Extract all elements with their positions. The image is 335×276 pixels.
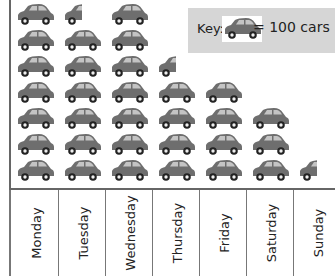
legend-key: Key: = 100 cars — [188, 8, 335, 53]
column-divider — [293, 190, 294, 276]
pictogram-chart: MondayTuesdayWednesdayThursdayFridaySatu… — [0, 0, 335, 276]
car-icon — [250, 159, 290, 183]
car-icon — [156, 133, 196, 157]
car-icon — [203, 133, 243, 157]
column-divider — [246, 190, 247, 276]
car-icon — [15, 81, 55, 105]
car-icon — [109, 133, 149, 157]
car-icon — [203, 107, 243, 131]
car-icon — [15, 133, 55, 157]
day-label-text: Tuesday — [75, 207, 90, 260]
car-icon — [250, 107, 290, 131]
key-value-text: = 100 cars — [253, 19, 330, 35]
column-divider — [58, 190, 59, 276]
day-label-tuesday: Tuesday — [59, 190, 106, 276]
car-icon — [62, 81, 102, 105]
half-car-icon — [297, 159, 335, 183]
car-icon — [156, 81, 196, 105]
car-icon — [203, 159, 243, 183]
car-icon — [62, 133, 102, 157]
car-icon — [109, 107, 149, 131]
day-label-friday: Friday — [200, 190, 247, 276]
car-icon — [156, 159, 196, 183]
day-label-text: Friday — [216, 213, 231, 252]
key-label: Key: — [197, 21, 224, 36]
car-icon — [62, 107, 102, 131]
car-icon — [109, 3, 149, 27]
car-icon — [15, 29, 55, 53]
car-icon — [109, 81, 149, 105]
car-icon — [156, 107, 196, 131]
column-divider — [199, 190, 200, 276]
day-label-text: Monday — [28, 207, 43, 258]
column-divider — [105, 190, 106, 276]
car-icon — [15, 55, 55, 79]
half-car-icon — [156, 55, 196, 79]
day-label-text: Saturday — [263, 204, 278, 263]
car-icon — [15, 159, 55, 183]
car-icon — [203, 81, 243, 105]
y-axis-line — [9, 0, 11, 190]
column-divider — [9, 190, 11, 276]
car-icon — [62, 55, 102, 79]
car-icon — [109, 159, 149, 183]
car-icon — [15, 107, 55, 131]
car-icon — [15, 3, 55, 27]
car-icon — [250, 133, 290, 157]
day-label-sunday: Sunday — [294, 190, 335, 276]
column-divider — [152, 190, 153, 276]
day-label-text: Sunday — [310, 209, 325, 258]
day-label-monday: Monday — [12, 190, 59, 276]
day-label-wednesday: Wednesday — [106, 190, 153, 276]
day-label-thursday: Thursday — [153, 190, 200, 276]
half-car-icon — [62, 3, 102, 27]
car-icon — [109, 55, 149, 79]
car-icon — [62, 159, 102, 183]
day-label-saturday: Saturday — [247, 190, 294, 276]
day-label-text: Thursday — [169, 203, 184, 263]
day-label-text: Wednesday — [122, 195, 137, 270]
car-icon — [62, 29, 102, 53]
car-icon — [109, 29, 149, 53]
